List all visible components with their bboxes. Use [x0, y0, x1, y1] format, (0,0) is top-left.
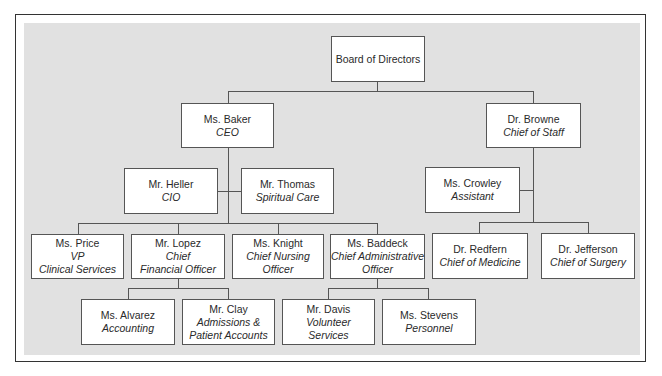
node-stevens: Ms. Stevens Personnel — [382, 299, 476, 345]
node-baddeck: Ms. Baddeck Chief Administrative Officer — [330, 234, 425, 279]
node-title: Chief Administrative Officer — [331, 250, 424, 276]
connector-to-davis — [328, 288, 329, 299]
connector-lopez-down — [178, 278, 179, 288]
connector-to-lopez — [178, 223, 179, 234]
node-name: Dr. Redfern — [453, 243, 507, 256]
node-jefferson: Dr. Jefferson Chief of Surgery — [541, 233, 635, 279]
node-name: Ms. Crowley — [444, 177, 502, 190]
node-baker: Ms. Baker CEO — [181, 103, 274, 148]
node-knight: Ms. Knight Chief Nursing Officer — [232, 234, 324, 279]
connector-to-baddeck — [377, 223, 378, 234]
node-name: Dr. Jefferson — [558, 243, 617, 256]
connector-to-price — [78, 223, 79, 234]
node-browne: Dr. Browne Chief of Staff — [486, 103, 581, 148]
connector-to-baker — [228, 91, 229, 103]
connector-to-browne — [533, 91, 534, 103]
node-name: Dr. Browne — [508, 113, 560, 126]
node-name: Mr. Clay — [209, 303, 248, 316]
connector-finance-bar — [128, 288, 229, 289]
node-lopez: Mr. Lopez Chief Financial Officer — [131, 234, 225, 279]
connector-heller-thomas — [217, 191, 241, 192]
node-heller: Mr. Heller CIO — [124, 168, 218, 214]
node-title: Assistant — [451, 190, 494, 203]
node-davis: Mr. Davis Volunteer Services — [282, 299, 375, 345]
node-title: CIO — [162, 191, 181, 204]
node-title: Chief of Staff — [503, 126, 564, 139]
connector-medical-bar — [479, 222, 589, 223]
node-title: Chief of Medicine — [439, 256, 520, 269]
connector-level1-bar — [228, 91, 534, 92]
node-name: Board of Directors — [336, 53, 421, 66]
node-title: Spiritual Care — [256, 191, 320, 204]
node-name: Ms. Alvarez — [101, 309, 155, 322]
node-name: Ms. Baddeck — [347, 237, 408, 250]
node-title: Chief of Surgery — [550, 256, 626, 269]
connector-board-down — [377, 81, 378, 91]
node-title: Chief Nursing Officer — [246, 250, 310, 276]
connector-admin-bar — [328, 288, 429, 289]
node-title: Accounting — [102, 322, 154, 335]
connector-to-knight — [278, 223, 279, 234]
node-thomas: Mr. Thomas Spiritual Care — [241, 168, 334, 214]
node-redfern: Dr. Redfern Chief of Medicine — [432, 233, 528, 279]
node-name: Mr. Davis — [307, 303, 351, 316]
connector-browne-trunk — [533, 147, 534, 222]
node-name: Ms. Baker — [204, 113, 251, 126]
node-title: CEO — [216, 126, 239, 139]
node-title: Chief Financial Officer — [140, 250, 216, 276]
connector-to-clay — [228, 288, 229, 299]
node-price: Ms. Price VP Clinical Services — [31, 234, 124, 279]
node-title: Personnel — [405, 322, 452, 335]
node-name: Ms. Knight — [253, 237, 303, 250]
node-name: Ms. Price — [56, 237, 100, 250]
connector-to-jefferson — [588, 222, 589, 233]
connector-to-alvarez — [128, 288, 129, 299]
connector-baker-trunk — [228, 147, 229, 223]
node-name: Mr. Heller — [149, 178, 194, 191]
node-title: VP Clinical Services — [39, 250, 116, 276]
node-title: Admissions & Patient Accounts — [189, 316, 267, 342]
node-alvarez: Ms. Alvarez Accounting — [81, 299, 175, 345]
connector-baddeck-down — [377, 278, 378, 288]
node-crowley: Ms. Crowley Assistant — [425, 167, 520, 213]
connector-level3-bar — [78, 223, 378, 224]
node-name: Ms. Stevens — [400, 309, 458, 322]
node-clay: Mr. Clay Admissions & Patient Accounts — [182, 299, 275, 345]
node-name: Mr. Lopez — [155, 237, 201, 250]
connector-to-stevens — [428, 288, 429, 299]
node-title: Volunteer Services — [306, 316, 351, 342]
connector-to-crowley — [519, 190, 533, 191]
node-board-of-directors: Board of Directors — [331, 36, 425, 82]
node-name: Mr. Thomas — [260, 178, 315, 191]
connector-to-redfern — [479, 222, 480, 233]
